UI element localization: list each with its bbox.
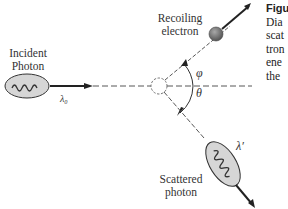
incident-photon-icon xyxy=(5,74,49,98)
scattered-label-line1: Scattered xyxy=(156,173,206,186)
recoil-arrow xyxy=(222,6,249,29)
recoiling-electron-icon xyxy=(209,27,223,41)
theta-label: θ xyxy=(196,86,202,101)
incident-label-line1: Incident xyxy=(4,47,52,60)
scattered-arrow xyxy=(236,185,252,204)
incident-wavelength-label: λ₀ xyxy=(60,93,68,104)
incident-label-line2: Photon xyxy=(4,60,52,73)
caption-line: the xyxy=(266,70,288,84)
recoiling-electron-label: Recoiling electron xyxy=(150,12,210,38)
recoil-label-line1: Recoiling xyxy=(150,12,210,25)
scattered-wavelength-label: λ′ xyxy=(236,139,244,154)
target-electron-icon xyxy=(151,78,167,94)
caption-title: Figu xyxy=(266,2,288,16)
phi-label: φ xyxy=(196,66,203,81)
caption-line: tron xyxy=(266,43,288,57)
caption-line: ene xyxy=(266,56,288,70)
incident-photon-label: Incident Photon xyxy=(4,47,52,73)
compton-scattering-diagram: Incident Photon λ₀ Recoiling electron φ … xyxy=(0,0,288,209)
phi-arc xyxy=(184,64,193,86)
recoil-label-line2: electron xyxy=(150,25,210,38)
diagram-graphic xyxy=(0,0,288,209)
caption-line: scat xyxy=(266,29,288,43)
caption-line: Dia xyxy=(266,16,288,30)
scattered-photon-label: Scattered photon xyxy=(156,173,206,199)
scattered-label-line2: photon xyxy=(156,186,206,199)
figure-caption: Figu Dia scat tron ene the xyxy=(266,2,288,84)
